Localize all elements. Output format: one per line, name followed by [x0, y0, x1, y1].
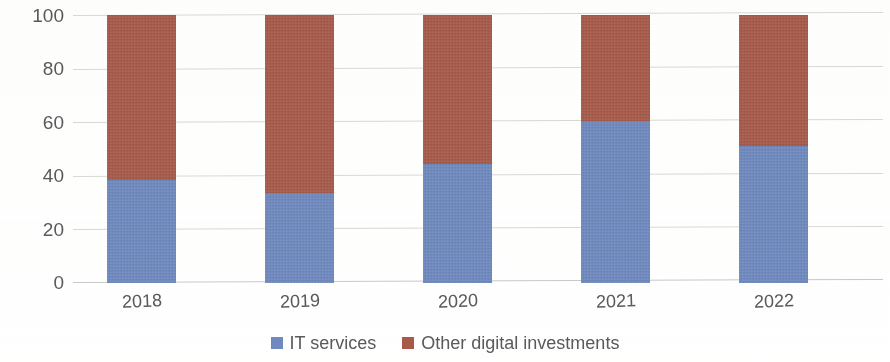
- y-axis-tick-40: 40: [2, 166, 64, 185]
- legend-swatch-other-digital-investments-icon: [402, 337, 414, 349]
- y-axis-tick-60: 60: [2, 113, 64, 132]
- bar-segment-other-digital-investments-2020: [423, 15, 492, 164]
- bar-segment-other-digital-investments-2018: [107, 15, 176, 180]
- bar-segment-other-digital-investments-2021: [581, 15, 650, 121]
- bar-segment-it-services-2020: [423, 164, 492, 283]
- bar-segment-other-digital-investments-2019: [265, 15, 334, 193]
- x-axis-tick-2021: 2021: [556, 288, 677, 315]
- y-axis-tick-20: 20: [2, 220, 64, 239]
- stacked-bar-chart: 100 80 60 40 20 0: [0, 0, 890, 362]
- legend-item-other-digital-investments: Other digital investments: [402, 332, 619, 354]
- legend-item-it-services: IT services: [271, 332, 377, 354]
- bar-segment-other-digital-investments-2022: [739, 15, 808, 146]
- bar-group-2021: [581, 15, 650, 283]
- y-axis-tick-100: 100: [2, 6, 64, 25]
- bar-group-2018: [107, 15, 176, 283]
- legend-label-other-digital-investments: Other digital investments: [421, 332, 619, 354]
- x-axis: 2018 2019 2020 2021 2022: [73, 290, 883, 322]
- chart-legend: IT services Other digital investments: [0, 332, 890, 354]
- y-axis-tick-0: 0: [2, 273, 64, 292]
- bar-segment-it-services-2022: [739, 146, 808, 283]
- legend-swatch-it-services-icon: [271, 337, 283, 349]
- y-axis: 100 80 60 40 20 0: [0, 15, 64, 283]
- x-axis-tick-2022: 2022: [714, 288, 835, 315]
- x-axis-tick-2019: 2019: [240, 288, 361, 315]
- bar-group-2020: [423, 15, 492, 283]
- legend-label-it-services: IT services: [290, 332, 377, 354]
- bar-segment-it-services-2018: [107, 180, 176, 283]
- bar-segment-it-services-2019: [265, 193, 334, 283]
- y-axis-tick-80: 80: [2, 59, 64, 78]
- bar-group-2019: [265, 15, 334, 283]
- plot-area: [73, 15, 883, 283]
- bar-group-2022: [739, 15, 808, 283]
- x-axis-tick-2020: 2020: [398, 288, 519, 315]
- bar-segment-it-services-2021: [581, 121, 650, 283]
- x-axis-tick-2018: 2018: [82, 288, 203, 315]
